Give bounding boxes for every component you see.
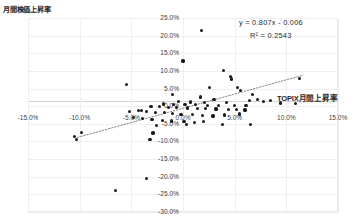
data-point <box>125 83 128 86</box>
data-point <box>193 121 196 124</box>
data-point <box>179 113 182 116</box>
data-point <box>151 131 154 134</box>
data-point <box>243 108 246 111</box>
trendline <box>0 0 354 219</box>
data-point <box>262 100 265 103</box>
data-point <box>161 119 164 122</box>
data-point <box>230 77 233 80</box>
trendline-equation: y = 0.807x - 0.006 <box>239 18 303 27</box>
data-point <box>149 105 152 108</box>
data-point <box>148 138 151 141</box>
data-point <box>227 108 230 111</box>
data-point <box>167 106 170 109</box>
data-point <box>185 123 188 126</box>
data-point <box>212 98 215 101</box>
data-point <box>244 104 247 107</box>
data-point <box>170 119 173 122</box>
data-point <box>154 111 157 114</box>
x-axis-title: TOPIX月間上昇率 <box>277 92 338 103</box>
data-point <box>221 123 224 126</box>
data-point <box>155 124 158 127</box>
data-point <box>128 110 131 113</box>
data-point <box>132 116 135 119</box>
data-point <box>150 118 153 121</box>
data-point <box>189 100 192 103</box>
data-point <box>162 102 165 105</box>
data-point <box>196 107 199 110</box>
data-point <box>223 113 226 116</box>
data-point <box>186 106 189 109</box>
data-point <box>181 59 184 62</box>
r-squared-label: R² = 0.2543 <box>250 31 292 40</box>
data-point <box>222 69 225 72</box>
data-point <box>211 114 214 117</box>
data-point <box>199 95 202 98</box>
scatter-chart: 月間株価上昇率 25.0%20.0%15.0%10.0%5.0%0.0%-5.0… <box>0 0 354 219</box>
data-point <box>214 107 217 110</box>
